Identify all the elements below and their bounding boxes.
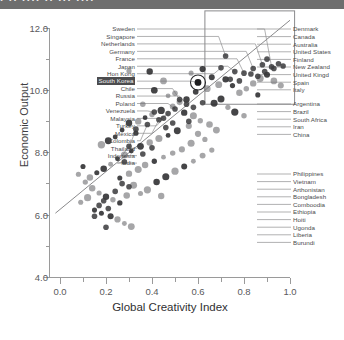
data-point	[97, 190, 102, 195]
data-point	[87, 174, 93, 180]
point-label-spain: Spain	[293, 79, 309, 86]
point-label-france: France	[115, 55, 135, 62]
data-point	[135, 118, 141, 124]
point-label-netherlands: Netherlands	[101, 40, 135, 47]
data-point	[195, 131, 201, 137]
data-point-afghanistan	[112, 189, 118, 195]
leader-line	[137, 51, 253, 68]
point-label-vietnam: Vietnam	[293, 178, 316, 185]
data-point-poland	[172, 106, 178, 112]
data-point	[84, 194, 91, 201]
data-point	[191, 159, 196, 164]
point-label-australia: Australia	[293, 41, 318, 48]
chart-screenshot: · ·· ···· ·· ··· ···· 12.0 10.0 8.0 6.0 …	[0, 0, 344, 340]
data-point	[230, 83, 235, 88]
point-label-burundi: Burundi	[293, 239, 315, 246]
data-point	[217, 95, 224, 102]
data-point-iran	[170, 120, 176, 126]
point-label-canada: Canada	[293, 33, 315, 40]
data-point-russia	[184, 101, 190, 107]
data-point	[172, 91, 178, 97]
leader-line	[137, 81, 198, 82]
point-label-argentina: Argentina	[293, 100, 320, 107]
trend-line	[55, 20, 290, 213]
data-point	[144, 186, 151, 193]
data-point	[160, 78, 167, 85]
data-point-mexico	[156, 117, 162, 123]
point-label-philippines: Philippines	[293, 170, 323, 177]
data-point	[161, 155, 166, 160]
data-point	[151, 87, 158, 94]
point-label-venezuela: Venezuela	[106, 107, 135, 114]
data-point	[166, 93, 171, 98]
data-point	[137, 143, 144, 150]
data-point	[278, 83, 284, 89]
point-label-italy: Italy	[293, 86, 305, 93]
data-point-france	[241, 70, 247, 76]
point-label-hon-kong: Hon Kong	[107, 70, 135, 77]
data-point	[166, 133, 171, 138]
data-point	[255, 92, 260, 97]
data-point	[108, 162, 113, 167]
point-label-mexico: Mexico	[115, 130, 135, 137]
data-point-venezuela	[152, 109, 158, 115]
point-label-new-zealand: New Zealand	[293, 63, 330, 70]
data-point	[181, 164, 187, 170]
data-point-bangladesh	[119, 181, 125, 187]
data-point-colombia	[145, 122, 151, 128]
point-label-south-africa: South Africa	[293, 116, 327, 123]
data-point	[231, 108, 238, 115]
data-point-south-africa	[186, 119, 192, 125]
data-point	[117, 200, 122, 205]
data-point-haiti	[96, 203, 102, 209]
point-label-sweden: Sweden	[112, 25, 135, 32]
annotation-box	[205, 11, 295, 104]
data-point	[225, 105, 230, 110]
point-label-singapore: Singapore	[106, 33, 135, 40]
data-point-canada	[271, 66, 277, 72]
data-point-hon-kong	[218, 65, 224, 71]
highlighted-point-south-korea	[195, 79, 202, 86]
data-point	[206, 121, 213, 128]
data-point	[98, 141, 105, 148]
data-point	[142, 162, 148, 168]
data-point	[174, 127, 181, 134]
data-point	[190, 112, 197, 119]
data-point	[114, 216, 120, 222]
data-point	[158, 193, 164, 199]
data-point	[100, 165, 107, 172]
data-point	[122, 221, 127, 226]
point-label-india: India	[121, 159, 135, 166]
data-point-malaysia	[165, 111, 171, 117]
point-label-arthonistan: Arthonistan	[293, 186, 325, 193]
data-point	[146, 139, 152, 145]
data-point	[211, 100, 218, 107]
data-point	[213, 127, 220, 134]
leader-line	[137, 44, 262, 65]
point-label-liberia: Liberia	[293, 231, 312, 238]
data-point	[162, 173, 169, 180]
data-point-vietnam	[140, 151, 146, 157]
data-point	[83, 179, 88, 184]
data-point-brazil	[191, 105, 197, 111]
data-point	[99, 211, 104, 216]
data-point	[188, 140, 195, 147]
point-label-hoiti: Hoiti	[293, 216, 306, 223]
point-label-russia: Russia	[116, 92, 135, 99]
point-label-united-kingd: United Kingd	[293, 71, 329, 78]
data-point-cambodia	[126, 184, 132, 190]
data-point-uganda	[106, 206, 112, 212]
point-label-denmark: Denmark	[293, 25, 318, 32]
data-point-philippines	[149, 145, 155, 151]
data-point	[146, 68, 152, 74]
data-point	[123, 192, 130, 199]
data-point-new-zealand	[255, 73, 261, 79]
point-label-china: China	[293, 131, 309, 138]
data-point-liberia	[92, 214, 98, 220]
data-point	[126, 170, 132, 176]
scatter-plot: 12.0 10.0 8.0 6.0 4.0 0.0 0.2 0.4 0.6 0.…	[0, 9, 344, 340]
data-point	[92, 208, 97, 213]
data-point	[110, 197, 115, 202]
data-point	[200, 153, 206, 159]
data-point-chile	[177, 97, 183, 103]
